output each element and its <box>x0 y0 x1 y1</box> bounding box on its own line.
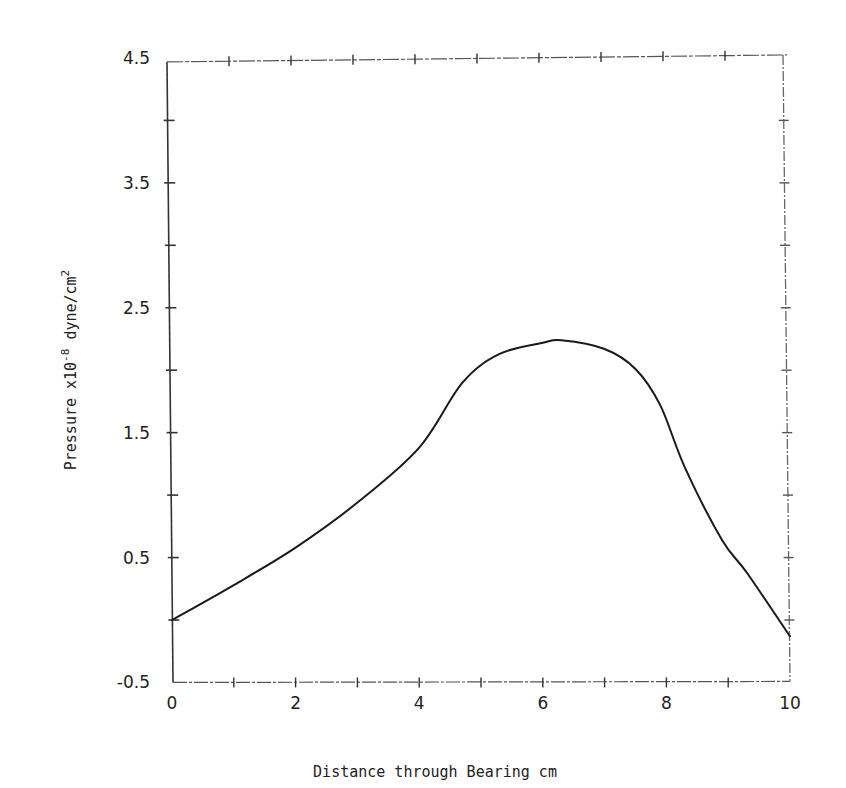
y-tick-label: 3.5 <box>123 173 150 193</box>
y-axis-title: Pressure x10-8 dyne/cm2 <box>59 270 80 471</box>
y-tick-label: 4.5 <box>123 48 150 68</box>
y-axis-title-exp: -8 <box>59 349 72 362</box>
x-tick-label: 2 <box>290 693 301 713</box>
x-tick-label: 8 <box>661 693 672 713</box>
y-axis-title-unit-exp: 2 <box>59 270 72 277</box>
pressure-curve <box>172 340 790 636</box>
x-axis-title: Distance through Bearing cm <box>313 763 557 781</box>
y-tick-labels: -0.50.51.52.53.54.5 <box>117 48 150 693</box>
plot-frame <box>167 55 790 683</box>
right-axis <box>783 55 790 682</box>
left-axis <box>167 62 173 683</box>
x-tick-labels: 0246810 <box>167 693 801 713</box>
axis-ticks <box>164 51 795 688</box>
x-tick-label: 10 <box>779 693 801 713</box>
x-tick-label: 0 <box>167 693 178 713</box>
y-tick-label: 1.5 <box>123 423 150 443</box>
y-tick-label: 2.5 <box>123 298 150 318</box>
y-tick-label: -0.5 <box>117 672 150 692</box>
x-tick-label: 6 <box>537 693 548 713</box>
y-axis-title-main: Pressure x10 <box>62 362 80 470</box>
y-tick-label: 0.5 <box>123 548 150 568</box>
y-axis-title-unit: dyne/cm <box>62 276 80 348</box>
x-tick-label: 4 <box>414 693 425 713</box>
pressure-chart: 0246810 -0.50.51.52.53.54.5 Distance thr… <box>0 0 846 788</box>
